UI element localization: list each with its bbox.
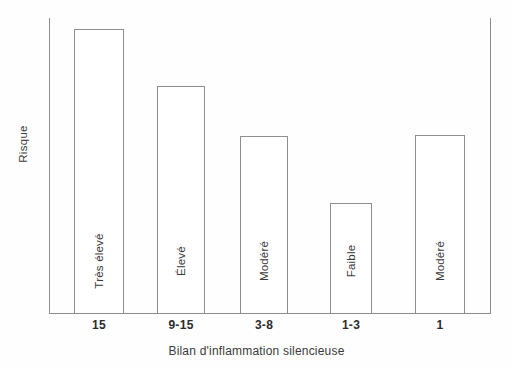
x-axis-title: Bilan d'inflammation silencieuse <box>0 344 513 358</box>
bar-modere-3-8: Modéré <box>240 136 288 313</box>
bar-label: Élevé <box>175 246 187 276</box>
bar-faible: Faible <box>330 203 372 313</box>
right-border-line <box>490 18 491 314</box>
bar-eleve: Élevé <box>157 86 205 313</box>
y-axis-title: Risque <box>17 121 29 167</box>
x-tick-label-1-3: 1-3 <box>330 318 372 332</box>
x-tick-label-3-8: 3-8 <box>240 318 288 332</box>
bar-chart-figure: Risque Très élevé Élevé Modéré Faible Mo… <box>0 0 513 370</box>
bar-label: Modéré <box>434 241 446 281</box>
x-axis-line <box>49 313 491 314</box>
bar-tres-eleve: Très élevé <box>74 29 124 313</box>
y-axis-line <box>49 18 50 314</box>
bar-label: Très élevé <box>93 233 105 288</box>
x-tick-label-15: 15 <box>74 318 124 332</box>
bar-label: Modéré <box>258 241 270 281</box>
bar-modere-1: Modéré <box>415 135 465 313</box>
bar-label: Faible <box>345 245 357 278</box>
x-tick-label-1: 1 <box>415 318 465 332</box>
x-tick-label-9-15: 9-15 <box>157 318 205 332</box>
